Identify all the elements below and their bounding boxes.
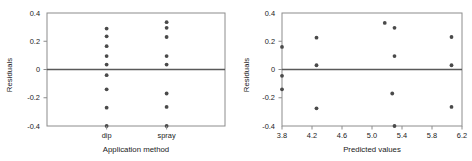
data-point (105, 27, 109, 31)
data-point (393, 124, 397, 128)
data-point (165, 105, 169, 109)
data-point (450, 63, 454, 67)
residuals-vs-predicted-values-panel: Residuals 0.40.20-0.2-0.4 3.84.24.65.05.… (236, 0, 472, 161)
data-point (105, 106, 109, 110)
data-point (165, 54, 169, 58)
data-point (105, 87, 109, 91)
left-x-axis-title: Application method (103, 145, 169, 154)
left-y-axis-title: Residuals (5, 58, 14, 92)
right-x-tick-label: 5.4 (397, 131, 407, 140)
right-scatter-svg: Residuals 0.40.20-0.2-0.4 3.84.24.65.05.… (236, 0, 472, 161)
right-y-tick-label: 0 (271, 65, 275, 74)
left-scatter-svg: Residuals 0.40.20-0.2-0.4 dipspray Appli… (0, 0, 236, 161)
data-point (165, 20, 169, 24)
residuals-vs-application-method-panel: Residuals 0.40.20-0.2-0.4 dipspray Appli… (0, 0, 236, 161)
figure-canvas: Residuals 0.40.20-0.2-0.4 dipspray Appli… (0, 0, 472, 161)
data-point (393, 26, 397, 30)
left-plot-svg-wrapper: Residuals 0.40.20-0.2-0.4 dipspray Appli… (0, 0, 236, 161)
data-point (393, 54, 397, 58)
right-y-axis-title: Residuals (242, 58, 251, 92)
left-y-tick-label: -0.2 (27, 93, 40, 102)
left-y-tick-label: 0 (36, 65, 40, 74)
left-x-tick-label: spray (158, 131, 176, 140)
left-y-tick-label: 0.2 (30, 37, 40, 46)
data-point (450, 105, 454, 109)
right-y-tick-label: -0.4 (262, 122, 275, 131)
data-point (165, 35, 169, 39)
data-point (280, 74, 284, 78)
right-x-tick-label: 4.2 (307, 131, 317, 140)
data-point (315, 63, 319, 67)
right-x-tick-label: 5.8 (427, 131, 437, 140)
left-x-tick-label: dip (102, 131, 112, 140)
data-point (390, 92, 394, 96)
data-point (105, 54, 109, 58)
right-y-tick-label: 0.2 (265, 37, 275, 46)
data-point (105, 73, 109, 77)
left-panel-background (0, 0, 236, 161)
data-point (280, 45, 284, 49)
right-y-tick-label: 0.4 (265, 9, 275, 18)
right-x-tick-label: 3.8 (277, 131, 287, 140)
data-point (315, 36, 319, 40)
right-x-tick-label: 4.6 (337, 131, 347, 140)
data-point (165, 63, 169, 67)
left-y-tick-label: 0.4 (30, 9, 40, 18)
right-x-tick-label: 6.2 (457, 131, 467, 140)
right-plot-svg-wrapper: Residuals 0.40.20-0.2-0.4 3.84.24.65.05.… (236, 0, 472, 161)
data-point (165, 26, 169, 30)
data-point (280, 87, 284, 91)
data-point (165, 92, 169, 96)
data-point (450, 35, 454, 39)
right-y-tick-label: -0.2 (262, 93, 275, 102)
left-y-tick-label: -0.4 (27, 122, 40, 131)
data-point (105, 63, 109, 67)
data-point (315, 106, 319, 110)
data-point (383, 21, 387, 25)
data-point (105, 44, 109, 48)
right-x-axis-title: Predicted values (343, 145, 401, 154)
right-x-tick-label: 5.0 (367, 131, 377, 140)
data-point (105, 34, 109, 38)
